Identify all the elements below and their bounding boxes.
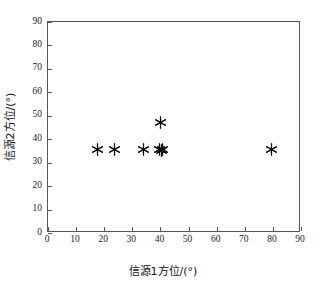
x-axis-tick-label: 70 [231, 234, 257, 245]
data-point-marker [91, 143, 104, 156]
y-axis-label-container: 信源2方位/(°) [0, 21, 18, 232]
x-axis-tick [245, 227, 246, 231]
data-point-marker [137, 143, 150, 156]
x-axis-tick-label: 90 [287, 234, 313, 245]
y-axis-tick-label: 40 [22, 133, 42, 144]
x-axis-tick-label: 20 [90, 234, 116, 245]
y-axis-tick-label: 0 [22, 227, 42, 238]
x-axis-tick [189, 227, 190, 231]
y-axis-tick [48, 163, 52, 164]
y-axis-tick [48, 69, 52, 70]
plot-frame [47, 21, 300, 232]
x-axis-tick [132, 227, 133, 231]
x-axis-tick [104, 227, 105, 231]
x-axis-tick-label: 30 [118, 234, 144, 245]
x-axis-tick [48, 227, 49, 231]
x-axis-tick-label: 60 [203, 234, 229, 245]
y-axis-label: 信源2方位/(°) [1, 92, 17, 161]
x-axis-tick [273, 227, 274, 231]
y-axis-tick-label: 70 [22, 62, 42, 73]
y-axis-tick-label: 90 [22, 16, 42, 27]
y-axis-tick-label: 30 [22, 156, 42, 167]
x-axis-tick [160, 227, 161, 231]
y-axis-tick [48, 210, 52, 211]
plot-area [48, 22, 299, 231]
x-axis-tick [301, 227, 302, 231]
x-axis-tick [76, 227, 77, 231]
data-point-marker [156, 143, 169, 156]
data-point-marker [108, 143, 121, 156]
y-axis-tick [48, 186, 52, 187]
y-axis-tick-label: 50 [22, 109, 42, 120]
y-axis-tick-label: 20 [22, 180, 42, 191]
y-axis-tick [48, 45, 52, 46]
x-axis-tick [217, 227, 218, 231]
data-point-marker [265, 143, 278, 156]
y-axis-tick [48, 116, 52, 117]
scatter-chart-figure: 01020304050607080900102030405060708090 信… [0, 0, 326, 293]
y-axis-tick-label: 10 [22, 203, 42, 214]
x-axis-tick-label: 50 [175, 234, 201, 245]
y-axis-tick [48, 22, 52, 23]
x-axis-tick-label: 40 [146, 234, 172, 245]
y-axis-tick-label: 60 [22, 86, 42, 97]
y-axis-tick-label: 80 [22, 39, 42, 50]
x-axis-tick-label: 10 [62, 234, 88, 245]
x-axis-tick-label: 80 [259, 234, 285, 245]
data-point-marker [154, 116, 167, 129]
y-axis-tick [48, 92, 52, 93]
x-axis-label: 信源1方位/(°) [0, 262, 326, 278]
y-axis-tick [48, 139, 52, 140]
